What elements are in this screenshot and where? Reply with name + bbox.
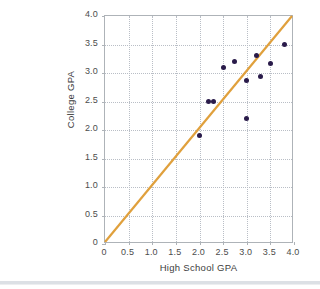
- y-tick: [102, 244, 105, 245]
- y-tick: [102, 159, 105, 160]
- x-tick-label: 3.0: [234, 247, 258, 257]
- y-tick: [102, 130, 105, 131]
- x-tick-label: 4.0: [281, 247, 305, 257]
- y-tick-label: 1.0: [74, 180, 98, 190]
- y-tick: [102, 73, 105, 74]
- y-tick-label: 4.0: [74, 9, 98, 19]
- y-tick-label: 3.5: [74, 38, 98, 48]
- scatter-plot-figure: 00.51.01.52.02.53.03.54.0 00.51.01.52.02…: [0, 0, 320, 289]
- y-tick: [102, 187, 105, 188]
- data-point: [268, 61, 273, 66]
- x-tick-label: 3.5: [257, 247, 281, 257]
- y-tick-label: 0.5: [74, 209, 98, 219]
- y-tick-label: 0: [74, 237, 98, 247]
- y-tick-label: 1.5: [74, 152, 98, 162]
- page-divider-rule-secondary: [0, 284, 320, 285]
- x-tick: [270, 242, 271, 245]
- y-tick: [102, 216, 105, 217]
- x-axis-title: High School GPA: [104, 262, 293, 273]
- x-tick: [223, 242, 224, 245]
- x-tick: [247, 242, 248, 245]
- x-tick: [129, 242, 130, 245]
- data-point: [221, 65, 226, 70]
- y-axis-title: College GPA: [65, 71, 76, 129]
- x-tick: [105, 242, 106, 245]
- y-tick: [102, 102, 105, 103]
- reference-line: [105, 16, 292, 242]
- plot-area: [104, 15, 293, 243]
- x-tick-label: 1.0: [139, 247, 163, 257]
- x-tick-label: 2.0: [187, 247, 211, 257]
- x-tick-label: 2.5: [210, 247, 234, 257]
- x-tick-label: 0.5: [116, 247, 140, 257]
- x-tick-label: 0: [92, 247, 116, 257]
- y-tick-label: 3.0: [74, 66, 98, 76]
- x-tick: [176, 242, 177, 245]
- y-tick-label: 2.0: [74, 123, 98, 133]
- x-tick: [152, 242, 153, 245]
- x-tick: [200, 242, 201, 245]
- y-tick: [102, 45, 105, 46]
- x-tick: [294, 242, 295, 245]
- x-tick-label: 1.5: [163, 247, 187, 257]
- y-tick-label: 2.5: [74, 95, 98, 105]
- y-tick: [102, 16, 105, 17]
